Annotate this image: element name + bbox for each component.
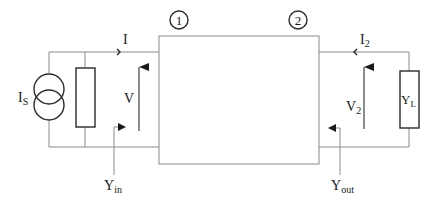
- source-admittance-resistor: [76, 68, 95, 127]
- two-port-circuit-diagram: 1 2 IS I V Yin I2 V2: [0, 0, 437, 205]
- input-wires: [49, 52, 159, 147]
- source-current-label: IS: [18, 90, 28, 107]
- port-2-label: 2: [295, 13, 302, 28]
- port-1-marker: 1: [170, 11, 188, 29]
- output-voltage-label: V2: [346, 99, 361, 116]
- port-2-marker: 2: [289, 11, 307, 29]
- output-admittance-arrow-icon: [328, 124, 340, 175]
- input-voltage-label: V: [124, 91, 134, 106]
- input-admittance-label: Yin: [104, 178, 122, 195]
- current-source-icon: [34, 74, 64, 120]
- input-admittance-arrow-icon: [114, 123, 126, 175]
- output-current-label: I2: [360, 32, 370, 49]
- input-current-label: I: [123, 32, 128, 47]
- two-port-network-box: [159, 36, 319, 164]
- load-admittance-label: YL: [401, 92, 416, 109]
- port-1-label: 1: [176, 13, 183, 28]
- output-admittance-label: Yout: [331, 178, 354, 195]
